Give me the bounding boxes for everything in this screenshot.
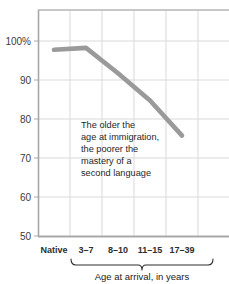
group-brace xyxy=(71,259,213,270)
annotation-line-1: The older the xyxy=(81,120,135,130)
annotation-line-5: second language xyxy=(81,168,151,178)
xtick-label-11-15: 11–15 xyxy=(138,245,163,255)
ytick-label-50: 50 xyxy=(20,231,32,242)
annotation-line-2: age at immigration, xyxy=(81,132,159,142)
ytick-label-70: 70 xyxy=(20,153,32,164)
ytick-label-100: 100% xyxy=(5,36,31,47)
xtick-label-native: Native xyxy=(40,245,67,255)
ytick-label-80: 80 xyxy=(20,114,32,125)
ytick-label-90: 90 xyxy=(20,75,32,86)
x-axis-labels: Native 3–7 8–10 11–15 17–39 xyxy=(40,245,194,255)
line-chart: 100% 90 80 70 60 50 Native 3–7 8–10 11–1… xyxy=(0,0,229,284)
y-axis-labels: 100% 90 80 70 60 50 xyxy=(5,36,31,242)
xtick-label-17-39: 17–39 xyxy=(169,245,194,255)
annotation-line-4: mastery of a xyxy=(81,156,132,166)
annotation-line-3: the poorer the xyxy=(81,144,138,154)
xtick-label-8-10: 8–10 xyxy=(108,245,128,255)
y-tick-marks xyxy=(34,41,38,236)
ytick-label-60: 60 xyxy=(20,192,32,203)
chart-svg: 100% 90 80 70 60 50 Native 3–7 8–10 11–1… xyxy=(0,0,229,284)
x-axis-caption: Age at arrival, in years xyxy=(95,271,190,282)
xtick-label-3-7: 3–7 xyxy=(78,245,93,255)
